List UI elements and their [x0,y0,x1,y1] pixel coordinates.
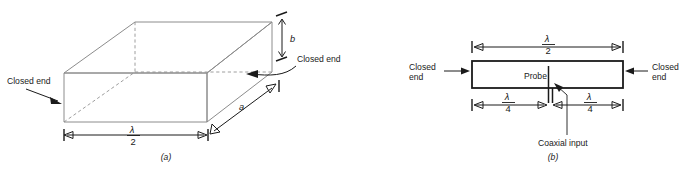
label-coaxial-input: Coaxial input [538,138,588,148]
fraction-lambda-quarter-left: λ 4 [502,91,515,114]
dimension-a [210,80,279,134]
caption-panel-a: (a) [161,152,172,162]
caption-panel-b: (b) [548,152,559,162]
fraction-numerator: λ [586,91,592,102]
fraction-denominator: 4 [505,103,510,114]
leader-closed-end-right-b [625,68,648,75]
hidden-diagonal [64,72,135,122]
fraction-denominator: 4 [587,103,592,114]
leader-closed-end-left-a [26,89,62,104]
dimension-b-tick-top [276,12,287,16]
fraction-lambda-quarter-right: λ 4 [584,91,597,114]
box-top-face [64,22,272,73]
dimension-b [276,12,287,61]
label-probe: Probe [524,71,547,81]
fraction-denominator: 2 [545,45,550,56]
fraction-numerator: λ [544,33,550,44]
fraction-denominator: 2 [130,136,135,147]
fraction-lambda-half-b: λ 2 [542,33,555,56]
leader-coaxial-input [554,83,567,135]
leader-closed-end-left-a-arrowhead [50,97,62,104]
label-closed-end-left-a: Closed end [7,76,51,86]
leader-closed-end-right-b-arrowhead [625,68,634,75]
fraction-lambda-half-a: λ 2 [127,124,140,147]
label-closed-end-left-b-line1: Closed [409,62,436,72]
leader-closed-end-left-b [444,68,470,75]
label-closed-end-right-a: Closed end [297,54,341,64]
figure-container: b a λ 2 Closed end Closed en [0,0,687,172]
label-closed-end-left-b-line2: end [409,72,424,82]
fraction-numerator: λ [129,124,135,135]
label-closed-end-right-b-line1: Closed [652,62,679,72]
dimension-a-arrow-lower [210,124,220,134]
box-front-face [64,73,207,122]
fraction-numerator: λ [504,91,510,102]
label-height-b: b [290,34,295,44]
dimension-b-tick-bottom [276,57,287,61]
dimension-lambda-half-a [64,129,208,141]
leader-closed-end-right-a-arrowhead [246,70,258,78]
panel-a-drawing: b a λ 2 Closed end Closed en [0,0,687,172]
label-closed-end-right-b-line2: end [652,72,667,82]
label-depth-a: a [239,102,244,112]
leader-closed-end-left-b-arrowhead [461,68,470,75]
cavity-rectangle [472,61,623,88]
leader-coaxial-input-line [557,86,567,135]
